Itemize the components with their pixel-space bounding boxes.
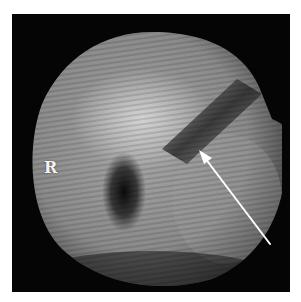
arrow-head-icon [199, 150, 212, 164]
arrow-shaft [205, 158, 270, 244]
arrow-annotation [0, 0, 301, 302]
